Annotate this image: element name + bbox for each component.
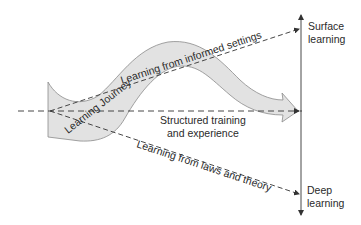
lower-path-label: Learning from laws and theory	[135, 138, 274, 194]
deep-learning-label-2: learning	[307, 197, 345, 209]
learning-journey-diagram: Learning from informed settings Learning…	[0, 0, 361, 225]
surface-learning-label-1: Surface	[308, 20, 344, 32]
deep-learning-label-1: Deep	[307, 184, 332, 196]
structured-training-label-1: Structured training	[160, 114, 246, 126]
surface-learning-label-2: learning	[308, 33, 346, 45]
structured-training-label-2: and experience	[167, 127, 239, 139]
